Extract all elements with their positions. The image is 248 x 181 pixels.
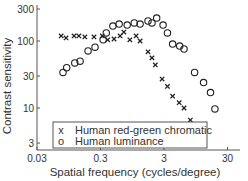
chromatic-point [72, 34, 76, 38]
legend-marker: o [58, 135, 64, 147]
y-tick-label: 30 [23, 71, 35, 82]
luminance-point [207, 89, 213, 95]
chromatic-point [83, 35, 87, 39]
data-points [59, 15, 218, 122]
luminance-point [200, 79, 206, 85]
chromatic-point [64, 36, 68, 40]
chromatic-point [138, 39, 142, 43]
y-axis-label: Contrast sensitivity [1, 38, 13, 135]
chromatic-point [150, 56, 154, 60]
y-tick-label: 100 [17, 36, 34, 47]
chromatic-point [134, 34, 138, 38]
x-axis-label: Spatial frequency (cycles/degree) [50, 166, 221, 178]
x-tick-label: 30 [222, 153, 234, 164]
luminance-point [164, 30, 170, 36]
luminance-point [63, 64, 69, 70]
luminance-point [145, 18, 151, 24]
x-tick-label: 3 [161, 153, 167, 164]
luminance-point [153, 15, 159, 21]
chromatic-point [118, 34, 122, 38]
luminance-point [131, 20, 137, 26]
chromatic-point [92, 35, 96, 39]
chromatic-point [170, 94, 174, 98]
y-tick-label: 3 [28, 138, 34, 149]
chromatic-point [177, 100, 181, 104]
chromatic-point [165, 84, 169, 88]
x-tick-label: 0.03 [27, 153, 47, 164]
legend-label: Human luminance [75, 135, 164, 147]
luminance-point [137, 21, 143, 27]
chromatic-point [128, 38, 132, 42]
chromatic-point [153, 63, 157, 67]
luminance-point [103, 30, 109, 36]
contrast-sensitivity-chart: 310301003000.030.3330 xHuman red-green c… [0, 0, 248, 181]
luminance-point [92, 44, 98, 50]
chromatic-point [146, 50, 150, 54]
luminance-point [191, 69, 197, 75]
luminance-point [110, 23, 116, 29]
luminance-point [212, 106, 218, 112]
chromatic-point [77, 34, 81, 38]
chromatic-point [160, 77, 164, 81]
luminance-point [160, 22, 166, 28]
x-tick-label: 0.3 [94, 153, 108, 164]
chromatic-point [122, 30, 126, 34]
luminance-point [124, 22, 130, 28]
legend: xHuman red-green chromaticoHuman luminan… [53, 122, 212, 148]
chromatic-point [182, 106, 186, 110]
luminance-point [116, 21, 122, 27]
y-tick-label: 10 [23, 103, 35, 114]
luminance-point [85, 48, 91, 54]
luminance-point [169, 41, 175, 47]
chromatic-point [59, 34, 63, 38]
y-tick-label: 300 [17, 4, 34, 15]
chromatic-point [112, 37, 116, 41]
